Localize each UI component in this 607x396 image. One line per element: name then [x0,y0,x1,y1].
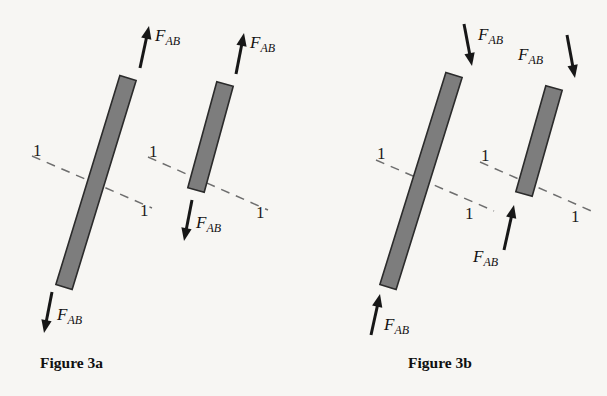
member-a-cut-bar [188,82,233,192]
force-a2-bottom-head-down-arrow-icon [181,227,191,241]
force-a2-top-head-up-arrow-icon [236,33,246,47]
force-b1-bottom-head-up-arrow-icon [372,294,382,308]
panel-b-caption: Figure 3b [408,354,472,371]
force-a2-bottom-label: FAB [195,213,222,235]
member-b-cut-bar [516,86,562,197]
member-a-full-bar [56,76,136,290]
member-b-full-section-label-2: 1 [465,204,474,223]
force-a1-top-label: FAB [154,26,181,48]
force-a1-bottom-shaft [46,292,52,322]
force-b2-top-label: FAB [517,45,544,67]
panel-b: 11FABFAB11FABFABFigure 3b [371,24,596,371]
panel-a: 11FABFAB11FABFABFigure 3a [32,26,276,371]
member-a-full-section-label-2: 1 [140,201,149,220]
figure-canvas: 11FABFAB11FABFABFigure 3a11FABFAB11FABFA… [0,0,607,396]
force-a1-bottom-head-down-arrow-icon [41,319,51,333]
member-a-cut-section-label-1: 1 [149,142,158,161]
panel-b-member-b-full: 11FABFAB [371,24,504,337]
force-b2-bottom-shaft [504,216,512,250]
force-a2-top-shaft [236,44,242,74]
force-a1-bottom-label: FAB [56,305,83,327]
panel-a-member-a-full: 11FABFAB [32,26,181,333]
force-b2-bottom-label: FAB [472,247,499,269]
force-b2-top-shaft [567,35,573,67]
figure-page: 11FABFAB11FABFABFigure 3a11FABFAB11FABFA… [0,0,607,396]
force-b1-bottom-shaft [371,305,378,335]
force-b1-top-label: FAB [477,25,504,47]
member-b-full-section-line [376,160,494,211]
force-b1-top-head-down-arrow-icon [464,52,474,66]
member-b-cut-section-label-2: 1 [571,207,580,226]
force-b1-top-shaft [464,24,470,55]
panel-b-member-b-cut: 11FABFAB [472,35,596,269]
member-a-full-section-label-1: 1 [33,141,42,160]
member-b-cut-section-label-1: 1 [481,146,490,165]
member-b-full-bar [380,72,462,289]
panel-a-caption: Figure 3a [40,354,103,371]
panel-a-member-a-cut: 11FABFAB [148,33,276,241]
force-b2-top-head-down-arrow-icon [568,64,578,78]
force-a2-top-label: FAB [249,33,276,55]
force-b1-bottom-label: FAB [383,315,410,337]
force-a1-top-shaft [140,37,147,68]
member-a-cut-section-label-2: 1 [256,203,265,222]
force-a1-top-head-up-arrow-icon [141,26,151,40]
force-a2-bottom-shaft [186,200,192,230]
member-b-full-section-label-1: 1 [377,144,386,163]
force-b2-bottom-head-up-arrow-icon [506,205,516,219]
